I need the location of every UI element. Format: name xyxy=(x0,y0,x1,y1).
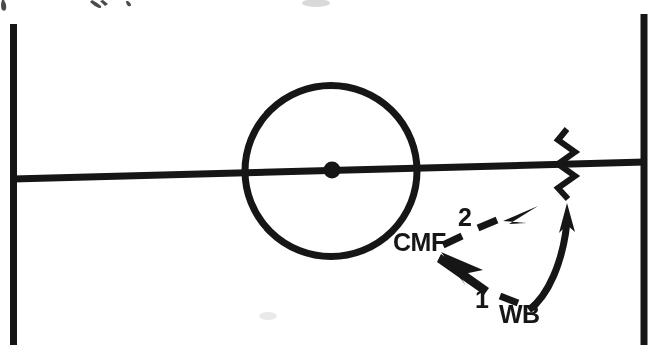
scan-artifacts-top xyxy=(1,0,330,320)
label-arrow-two: 2 xyxy=(458,203,472,231)
label-arrow-one: 1 xyxy=(475,285,489,313)
label-wb: WB xyxy=(499,300,540,328)
diagram-canvas: CMF 2 1 WB xyxy=(0,0,659,345)
dashed-arrow-2 xyxy=(478,206,538,228)
label-cmf: CMF xyxy=(393,228,446,256)
center-dot xyxy=(324,162,341,179)
curved-arrow-wb xyxy=(529,203,575,310)
figure-root: CMF 2 1 WB xyxy=(0,0,659,345)
cmf-leader-dash xyxy=(443,236,462,245)
